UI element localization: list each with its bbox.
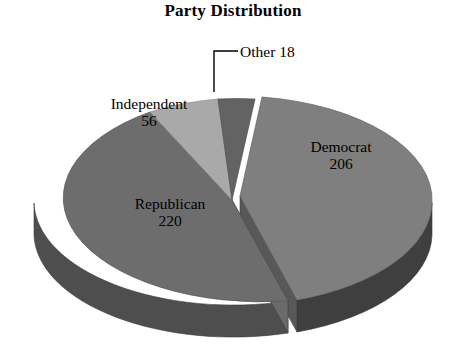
slice-label-independent-value: 56 [79, 113, 219, 130]
slice-label-democrat-value: 206 [281, 156, 401, 173]
other-leader-line [214, 51, 238, 92]
slice-label-republican-value: 220 [100, 213, 240, 230]
pie-chart: Party Distribution [0, 0, 466, 354]
slice-label-independent-name: Independent [79, 96, 219, 113]
slice-label-other: Other 18 [240, 44, 360, 61]
slice-label-republican-name: Republican [100, 196, 240, 213]
slice-label-other-text: Other 18 [240, 43, 295, 60]
slice-label-independent: Independent 56 [79, 96, 219, 129]
slice-label-democrat-name: Democrat [281, 139, 401, 156]
slice-label-democrat: Democrat 206 [281, 139, 401, 172]
pie-chart-graphic [0, 0, 466, 354]
slice-label-republican: Republican 220 [100, 196, 240, 229]
leader-line-path [214, 51, 238, 92]
